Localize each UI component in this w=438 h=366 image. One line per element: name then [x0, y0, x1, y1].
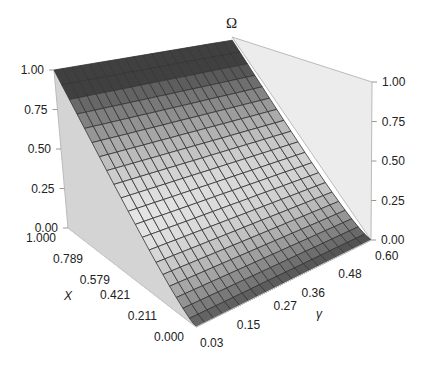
surface-chart: 0.000.250.500.751.000.000.250.500.751.00… — [0, 0, 438, 366]
z-tick-label-right: 0.00 — [381, 233, 405, 247]
surface-plot: 0.000.250.500.751.000.000.250.500.751.00… — [0, 0, 438, 366]
z-tick-label-right: 1.00 — [382, 75, 406, 89]
z-tick-label-right: 0.50 — [382, 154, 406, 168]
z-tick-label-right: 0.25 — [381, 194, 405, 208]
y-tick-label: 0.15 — [237, 318, 261, 332]
x-tick-label: 0.789 — [53, 252, 83, 266]
x-tick-label: 0.000 — [154, 330, 184, 344]
z-tick-label-left: 1.00 — [21, 63, 45, 77]
x-tick-label: 1.000 — [26, 231, 56, 245]
x-tick-label: 0.211 — [128, 309, 157, 323]
z-axis-label: Ω — [226, 15, 237, 31]
z-tick-label-right: 0.75 — [382, 115, 406, 129]
y-tick-label: 0.60 — [375, 249, 399, 263]
z-tick-label-left: 0.25 — [31, 182, 55, 196]
y-tick-label: 0.27 — [274, 299, 298, 313]
x-axis-label: X — [63, 289, 73, 303]
y-tick-label: 0.36 — [302, 286, 326, 300]
x-tick-label: 0.579 — [80, 273, 110, 287]
z-tick-label-left: 0.50 — [28, 142, 52, 156]
y-tick-label: 0.03 — [200, 336, 224, 350]
y-axis-label: γ — [316, 307, 323, 321]
y-tick-label: 0.48 — [338, 267, 362, 281]
z-tick-label-left: 0.75 — [24, 103, 48, 117]
x-tick-label: 0.421 — [100, 288, 130, 302]
